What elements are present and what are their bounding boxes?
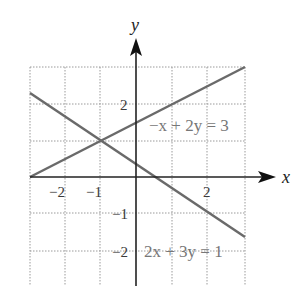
- graph: x y −2 −1 2 2 −1 −2 −x + 2y = 3 2x + 3y …: [0, 0, 302, 286]
- y-axis-label: y: [129, 15, 139, 35]
- x-tick-2: 2: [203, 184, 211, 200]
- y-tick-2: 2: [120, 97, 128, 113]
- equation-label-1: −x + 2y = 3: [149, 116, 229, 135]
- x-axis-label: x: [281, 167, 290, 187]
- x-tick-neg2: −2: [49, 184, 65, 200]
- equation-label-2: 2x + 3y = 1: [144, 242, 223, 261]
- x-tick-neg1: −1: [86, 184, 102, 200]
- y-tick-neg1: −1: [112, 206, 128, 222]
- y-tick-neg2: −2: [112, 244, 128, 260]
- line-eq2: [30, 93, 245, 237]
